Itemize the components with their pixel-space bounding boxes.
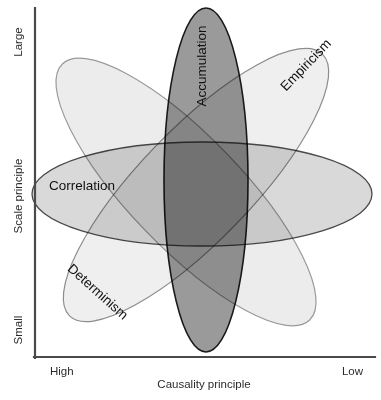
venn-diagram-canvas: Accumulation Empiricism Determinism Corr… [0, 0, 381, 400]
diagram-root: Accumulation Empiricism Determinism Corr… [0, 0, 381, 400]
label-correlation: Correlation [49, 178, 115, 193]
x-axis-label: Causality principle [157, 378, 250, 390]
y-axis-tick-small: Small [12, 316, 24, 345]
y-axis-tick-large: Large [12, 27, 24, 56]
y-axis-label: Scale principle [12, 159, 24, 234]
x-axis-tick-high: High [50, 365, 74, 377]
x-axis-tick-low: Low [342, 365, 364, 377]
label-accumulation: Accumulation [194, 25, 209, 106]
